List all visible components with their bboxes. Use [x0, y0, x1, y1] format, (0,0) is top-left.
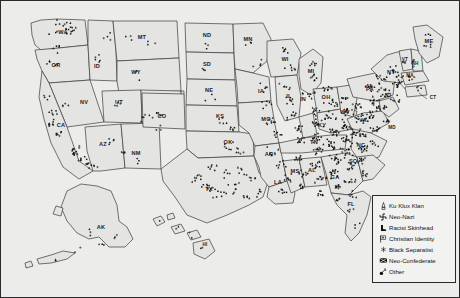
hate-group-marker	[322, 195, 324, 197]
legend-label: Christian Identity	[389, 236, 434, 242]
hate-group-marker	[376, 126, 378, 128]
state-label-me: ME	[425, 38, 434, 44]
hate-group-marker	[373, 128, 375, 130]
hate-group-marker	[340, 159, 342, 161]
hate-group-marker	[346, 149, 348, 151]
hate-group-marker	[390, 66, 392, 68]
hate-group-marker	[143, 117, 145, 119]
hate-group-marker	[62, 25, 64, 27]
swastika-cross-icon	[377, 213, 389, 221]
hate-group-marker	[371, 91, 373, 93]
hate-group-marker	[342, 119, 344, 121]
hate-group-marker	[330, 103, 332, 105]
hate-group-marker	[383, 120, 385, 122]
hate-group-marker	[344, 141, 346, 143]
hate-group-marker	[207, 188, 209, 190]
hate-group-marker	[160, 129, 162, 131]
state-label-la: LA	[274, 179, 282, 185]
hate-group-marker	[353, 133, 355, 135]
hate-group-marker	[371, 86, 373, 88]
hate-group-marker	[314, 125, 316, 127]
hate-group-marker	[347, 97, 349, 99]
hate-group-marker	[271, 154, 273, 156]
legend-item: Racist Skinhead	[377, 223, 451, 233]
legend-item: Other	[377, 267, 451, 277]
hate-group-marker	[355, 105, 357, 107]
hate-group-marker	[139, 79, 141, 81]
hate-group-marker	[91, 164, 93, 166]
hate-group-marker	[379, 109, 381, 111]
hate-group-marker	[312, 163, 314, 165]
hate-group-marker	[52, 121, 54, 123]
hate-group-marker	[49, 125, 51, 127]
hate-group-marker	[425, 34, 427, 36]
hate-group-marker	[276, 165, 278, 167]
map-legend: Ku Klux Klan Neo-Nazi Racist Skinhead Ch…	[372, 195, 456, 283]
state-label-tx: TX	[205, 186, 213, 192]
hate-group-marker	[402, 75, 404, 77]
hate-group-marker	[345, 154, 347, 156]
hate-group-marker	[337, 171, 339, 173]
hate-group-marker	[374, 144, 376, 146]
state-label-ct: CT	[430, 95, 437, 100]
hate-group-marker	[260, 83, 262, 85]
hate-group-marker	[352, 196, 354, 198]
hate-group-marker	[79, 247, 81, 249]
hate-group-marker	[317, 132, 319, 134]
hate-group-marker	[335, 185, 337, 187]
hate-group-marker	[349, 152, 351, 154]
hate-group-marker	[260, 63, 262, 65]
hate-group-marker	[314, 65, 316, 67]
hate-group-marker	[294, 127, 296, 129]
hate-group-marker	[322, 177, 324, 179]
hate-group-marker	[131, 39, 133, 41]
hate-group-marker	[282, 192, 284, 194]
hate-group-marker	[364, 145, 366, 147]
hate-group-marker	[259, 189, 261, 191]
hate-group-marker	[324, 119, 326, 121]
hate-group-marker	[158, 112, 160, 114]
hate-group-marker	[246, 196, 248, 198]
hate-group-marker	[379, 83, 381, 85]
hate-group-marker	[346, 136, 348, 138]
hate-group-marker	[55, 110, 57, 112]
hate-group-marker	[203, 184, 205, 186]
hate-group-marker	[359, 147, 361, 149]
hate-group-marker	[44, 97, 46, 99]
hate-group-marker	[378, 100, 380, 102]
hate-group-marker	[399, 99, 401, 101]
hate-group-marker	[317, 195, 319, 197]
other-mark-icon	[377, 268, 389, 276]
hate-group-marker	[343, 137, 345, 139]
hate-group-marker	[211, 94, 213, 96]
hate-group-marker	[200, 179, 202, 181]
hate-group-marker	[329, 129, 331, 131]
hate-group-marker	[351, 142, 353, 144]
hate-group-marker	[201, 186, 203, 188]
hate-group-marker	[208, 185, 210, 187]
hate-group-marker	[378, 105, 380, 107]
hate-group-marker	[350, 127, 352, 129]
state-label-nm: NM	[131, 150, 140, 156]
hate-group-marker	[372, 143, 374, 145]
hate-group-marker	[98, 243, 100, 245]
hate-group-marker	[349, 141, 351, 143]
hate-group-marker	[321, 179, 323, 181]
hate-group-marker	[238, 172, 240, 174]
hate-group-marker	[297, 137, 299, 139]
hate-group-marker	[330, 141, 332, 143]
hate-group-marker	[226, 148, 228, 150]
hate-group-marker	[278, 191, 280, 193]
hate-group-marker	[209, 190, 211, 192]
hate-group-marker	[396, 95, 398, 97]
hate-group-marker	[200, 175, 202, 177]
hate-group-marker	[347, 129, 349, 131]
hate-group-marker	[335, 131, 337, 133]
hate-group-marker	[353, 114, 355, 116]
hate-group-marker	[327, 139, 329, 141]
hate-group-marker	[221, 196, 223, 198]
hate-group-marker	[338, 186, 340, 188]
hate-group-marker	[358, 162, 360, 164]
hate-group-marker	[217, 191, 219, 193]
hate-group-marker	[203, 69, 205, 71]
